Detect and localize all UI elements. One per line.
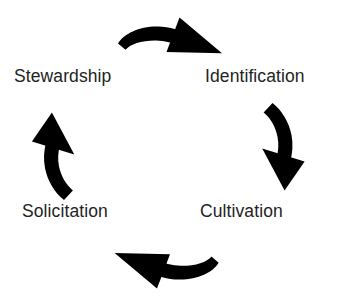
stage-label-stewardship: Stewardship <box>14 68 111 86</box>
arrow-bottom-icon <box>115 253 219 289</box>
stage-label-solicitation: Solicitation <box>22 203 108 221</box>
arrow-top-icon <box>118 18 222 54</box>
arrow-left-icon <box>32 112 74 200</box>
arrow-right-icon <box>262 103 304 191</box>
stage-label-cultivation: Cultivation <box>200 203 283 221</box>
cycle-diagram: Identification Cultivation Solicitation … <box>0 0 337 303</box>
stage-label-identification: Identification <box>205 68 305 86</box>
cycle-arrows-graphic <box>0 0 337 303</box>
